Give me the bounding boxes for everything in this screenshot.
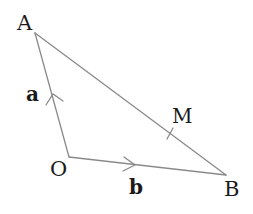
vector-diagram: A O B M a b xyxy=(0,0,253,214)
segment-ab xyxy=(35,33,226,175)
label-m-point: M xyxy=(172,104,192,128)
label-vector-b: b xyxy=(129,175,143,199)
label-o-point: O xyxy=(50,157,67,181)
midpoint-tick-m xyxy=(167,128,173,139)
label-vector-a: a xyxy=(26,82,39,106)
label-a-point: A xyxy=(16,11,33,35)
label-b-point: B xyxy=(224,177,239,201)
segment-ob xyxy=(69,157,226,175)
